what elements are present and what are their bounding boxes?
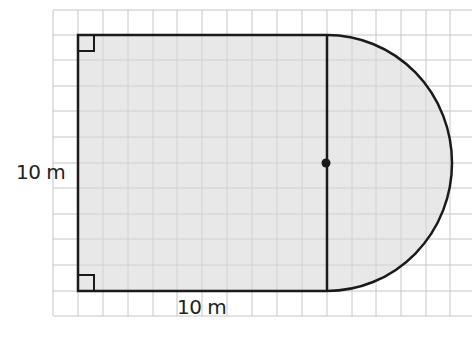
shape-fill: [78, 35, 452, 291]
left-side-label: 10 m: [16, 160, 65, 184]
diagram-canvas: [0, 0, 472, 342]
center-dot: [322, 159, 331, 168]
bottom-side-label: 10 m: [177, 295, 226, 319]
